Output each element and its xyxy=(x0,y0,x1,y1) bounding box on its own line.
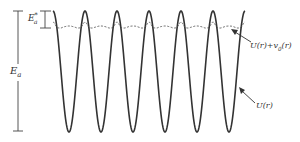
potential-curve xyxy=(53,11,245,132)
potential-label: U(r) xyxy=(256,102,273,110)
potential-energy-diagram xyxy=(0,0,300,142)
activation-energy-star-bracket xyxy=(40,11,51,28)
activation-energy-star-label: E*a xyxy=(28,12,38,25)
activation-energy-label: Ea xyxy=(10,64,22,81)
potential-arrow xyxy=(239,87,255,103)
perturbed-potential-label: U(r)+v0(r) xyxy=(250,42,292,52)
